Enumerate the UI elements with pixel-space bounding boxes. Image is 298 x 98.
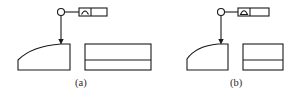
front-view-shape [187,44,228,70]
caption-b: (b) [230,77,243,89]
profile-of-line-icon [82,11,89,15]
caption-a: (a) [75,77,87,89]
gdt-diagram: (a) (b) [0,0,298,98]
side-view-rect [85,44,151,70]
tolerance-frame [238,8,269,16]
all-around-circle-icon [58,9,65,16]
profile-of-surface-icon [241,11,248,15]
side-view-rect [243,44,283,70]
panel-a: (a) [18,8,151,89]
tolerance-frame [79,8,107,16]
panel-b: (b) [187,8,283,89]
all-around-circle-icon [218,9,225,16]
front-view-shape [18,44,70,70]
